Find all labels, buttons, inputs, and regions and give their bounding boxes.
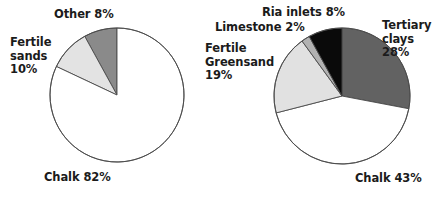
pie-label-line: sands [10, 50, 51, 64]
pie-label-line: Other 8% [54, 8, 114, 22]
pie-label-line: clays [382, 33, 431, 47]
pie-label-line: 28% [382, 46, 431, 60]
pie-label-line: Fertile [10, 36, 51, 50]
pie-chart-figure: Other 8%Fertilesands10%Chalk 82% Ria inl… [0, 0, 446, 203]
pie-label-line: 10% [10, 63, 51, 77]
pie-label-limestone: Limestone 2% [215, 21, 305, 35]
pie-label-line: Ria inlets 8% [262, 6, 345, 20]
pie-label-line: Chalk 43% [355, 172, 422, 186]
left-pie-svg [0, 0, 223, 203]
right-pie-chart: Ria inlets 8%Limestone 2%FertileGreensan… [223, 0, 446, 203]
pie-label-line: Chalk 82% [44, 171, 111, 185]
pie-label-chalk: Chalk 82% [44, 171, 111, 185]
pie-label-line: 19% [205, 69, 274, 83]
pie-label-ria-inlets: Ria inlets 8% [262, 6, 345, 20]
pie-label-fertile-greensand: FertileGreensand19% [205, 42, 274, 83]
pie-label-chalk: Chalk 43% [355, 172, 422, 186]
left-pie-chart: Other 8%Fertilesands10%Chalk 82% [0, 0, 223, 203]
pie-label-line: Tertiary [382, 19, 431, 33]
left-pie-slices [50, 28, 184, 162]
pie-label-other: Other 8% [54, 8, 114, 22]
pie-label-line: Fertile [205, 42, 274, 56]
pie-label-fertile-sands: Fertilesands10% [10, 36, 51, 77]
pie-label-line: Greensand [205, 56, 274, 70]
pie-label-tertiary-clays: Tertiaryclays28% [382, 19, 431, 60]
pie-label-line: Limestone 2% [215, 21, 305, 35]
